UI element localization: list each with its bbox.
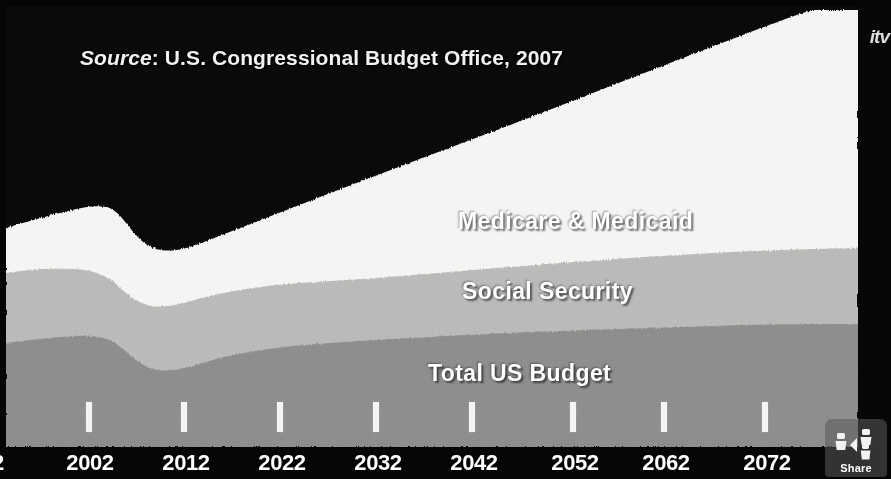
source-credit: Source: U.S. Congressional Budget Office… (80, 46, 563, 70)
x-axis-label-2012: 2012 (162, 450, 209, 476)
source-value: U.S. Congressional Budget Office, 2007 (165, 46, 563, 69)
share-button-label: Share (840, 462, 872, 474)
band-label-total-us-budget: Total US Budget (428, 360, 611, 387)
x-axis-label-2022: 2022 (258, 450, 305, 476)
x-axis-tick-2062 (661, 402, 667, 432)
band-label-social-security: Social Security (462, 278, 633, 305)
x-axis-tick-2022 (277, 402, 283, 432)
x-axis-label-2032: 2032 (354, 450, 401, 476)
band-label-medicare-medicaid: Medicare & Medicaid (458, 208, 693, 235)
share-people-icon (833, 429, 879, 461)
x-axis-label-2002: 2002 (66, 450, 113, 476)
x-axis-tick-2052 (570, 402, 576, 432)
share-arrow-icon (850, 438, 857, 452)
video-player-frame: Source: U.S. Congressional Budget Office… (0, 0, 891, 479)
share-button[interactable]: Share (825, 419, 887, 477)
x-axis-tick-2002 (86, 402, 92, 432)
x-axis-label-partial: 2 (0, 450, 4, 476)
x-axis-label-2042: 2042 (450, 450, 497, 476)
x-axis-label-2072: 2072 (743, 450, 790, 476)
right-letterbox-gutter (858, 0, 891, 447)
x-axis-label-2062: 2062 (642, 450, 689, 476)
x-axis-tick-2042 (469, 402, 475, 432)
x-axis-label-2052: 2052 (551, 450, 598, 476)
source-separator: : (152, 46, 165, 69)
x-axis-tick-2012 (181, 402, 187, 432)
x-axis-label-strip: 2 2002 2012 2022 2032 2042 2052 2062 207… (0, 447, 891, 479)
x-axis-tick-2072 (762, 402, 768, 432)
source-label: Source (80, 46, 152, 69)
itv-logo-watermark: itv (870, 26, 889, 48)
x-axis-tick-2032 (373, 402, 379, 432)
